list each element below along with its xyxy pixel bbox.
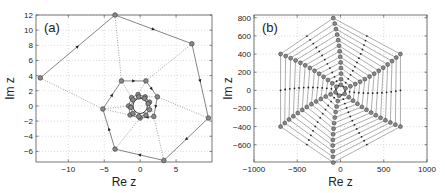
edge-midpoint-marker xyxy=(321,87,323,89)
data-point xyxy=(363,77,367,81)
data-point xyxy=(355,102,359,106)
data-point xyxy=(131,111,136,116)
y-tick-label: 12 xyxy=(24,11,33,20)
data-point xyxy=(142,96,147,101)
edge-midpoint-marker xyxy=(354,124,356,126)
data-point xyxy=(279,125,283,129)
x-tick-label: 0 xyxy=(138,165,143,174)
edge-midpoint-marker xyxy=(310,134,312,136)
y-tick-label: 600 xyxy=(238,32,252,41)
edge-midpoint-marker xyxy=(280,89,282,91)
data-point xyxy=(337,94,341,98)
data-point xyxy=(326,78,330,82)
y-tick-label: 4 xyxy=(29,72,34,81)
edge-midpoint-marker xyxy=(400,89,402,91)
edge-midpoint-marker xyxy=(363,140,365,142)
y-tick-label: −200 xyxy=(233,104,252,113)
data-point xyxy=(300,108,304,112)
data-point xyxy=(388,121,392,125)
edge-midpoint-marker xyxy=(330,101,332,103)
data-point xyxy=(101,107,106,112)
data-point xyxy=(360,105,364,109)
y-tick-label: 200 xyxy=(238,68,252,77)
data-point xyxy=(303,63,307,67)
edge-midpoint-marker xyxy=(317,121,319,123)
edge-midpoint-marker xyxy=(308,139,310,141)
edge-midpoint-marker xyxy=(358,92,360,94)
data-point xyxy=(337,44,341,48)
panel-b: −1000−50005001000−600−400−20002004006008… xyxy=(221,14,436,189)
data-point xyxy=(144,113,149,118)
edge-midpoint-marker xyxy=(346,107,348,109)
data-point xyxy=(331,155,335,159)
y-tick-label: −2 xyxy=(24,117,34,126)
edge-midpoint-marker xyxy=(321,55,323,57)
edge-midpoint-marker xyxy=(363,92,365,94)
data-point xyxy=(333,116,337,120)
edge-midpoint-marker xyxy=(326,87,328,89)
data-point xyxy=(338,49,342,53)
data-point xyxy=(136,95,141,100)
data-point xyxy=(313,69,317,73)
edge-midpoint-marker xyxy=(289,88,291,90)
y-tick-label: −4 xyxy=(24,132,34,141)
panel-a: −10−505−6−4−2024681012Re zIm z(a) xyxy=(3,11,212,189)
x-tick-label: 0 xyxy=(338,165,343,174)
edge-midpoint-marker xyxy=(324,59,326,61)
data-point xyxy=(369,111,373,115)
y-tick-label: 0 xyxy=(29,102,34,111)
y-tick-label: 10 xyxy=(24,26,33,35)
y-tick-label: 6 xyxy=(29,56,34,65)
edge-midpoint-marker xyxy=(317,87,319,89)
data-point xyxy=(335,105,339,109)
data-point xyxy=(374,113,378,117)
edge-midpoint-marker xyxy=(395,90,397,92)
edge-midpoint-marker xyxy=(307,87,309,89)
data-point xyxy=(343,92,347,96)
edge-midpoint-marker xyxy=(312,87,314,89)
edge-midpoint-marker xyxy=(325,109,327,111)
edge-midpoint-marker xyxy=(362,49,364,51)
data-point xyxy=(279,52,283,56)
edge-midpoint-marker xyxy=(333,97,335,99)
data-point xyxy=(333,22,337,26)
x-tick-label: −500 xyxy=(288,165,307,174)
edge-midpoint-marker xyxy=(367,92,369,94)
edge-midpoint-marker xyxy=(366,35,368,37)
data-point xyxy=(336,99,340,103)
edge-midpoint-marker xyxy=(376,92,378,94)
data-point xyxy=(351,99,355,103)
data-point xyxy=(155,95,160,100)
edge-midpoint-marker xyxy=(386,91,388,93)
figure: −10−505−6−4−2024681012Re zIm z(a) −1000−… xyxy=(0,0,445,193)
edge-midpoint-marker xyxy=(353,91,355,93)
data-point xyxy=(283,121,287,125)
edge-midpoint-marker xyxy=(390,91,392,93)
edge-midpoint-marker xyxy=(306,144,308,146)
x-tick-label: 1000 xyxy=(418,165,436,174)
data-point xyxy=(368,74,372,78)
data-point xyxy=(113,147,118,152)
data-point xyxy=(129,105,134,110)
data-point xyxy=(339,66,343,70)
data-point xyxy=(296,111,300,115)
data-point xyxy=(348,84,352,88)
data-point xyxy=(144,79,149,84)
x-axis-label: Re z xyxy=(328,175,353,189)
data-point xyxy=(314,99,318,103)
data-point xyxy=(358,80,362,84)
x-axis-label: Re z xyxy=(112,175,137,189)
data-point xyxy=(377,69,381,73)
y-tick-label: 0 xyxy=(247,86,252,95)
data-point xyxy=(152,114,157,119)
edge-midpoint-marker xyxy=(309,39,311,41)
edge-midpoint-marker xyxy=(349,116,351,118)
y-tick-label: 2 xyxy=(29,87,34,96)
data-point xyxy=(343,86,347,90)
edge-midpoint-marker xyxy=(327,63,329,65)
data-point xyxy=(339,60,343,64)
data-point xyxy=(317,72,321,76)
data-point xyxy=(206,116,211,121)
edge-midpoint-marker xyxy=(366,144,368,146)
data-point xyxy=(319,97,323,101)
